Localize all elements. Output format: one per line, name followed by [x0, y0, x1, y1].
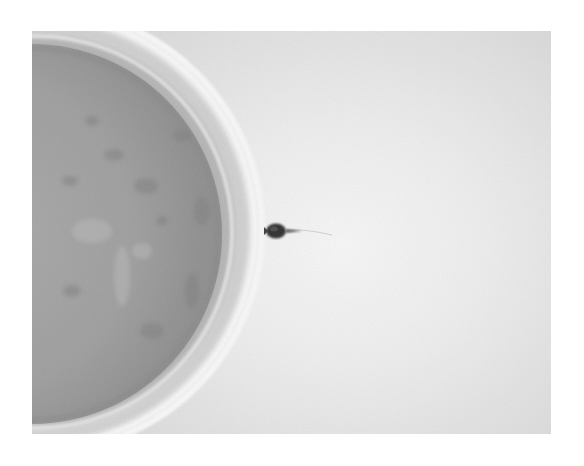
grain-overlay [32, 31, 551, 434]
page [0, 0, 584, 466]
egg-and-sperm-illustration [32, 31, 551, 434]
micrograph-photo [32, 31, 551, 434]
